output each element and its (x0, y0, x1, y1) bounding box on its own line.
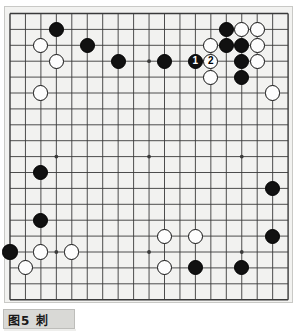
go-diagram-figure: 12 图5 刺 (0, 0, 297, 331)
board-grid (4, 6, 293, 303)
figure-caption: 图5 刺 (3, 309, 75, 329)
go-board[interactable] (4, 6, 293, 303)
figure-caption-text: 图5 刺 (4, 311, 49, 328)
